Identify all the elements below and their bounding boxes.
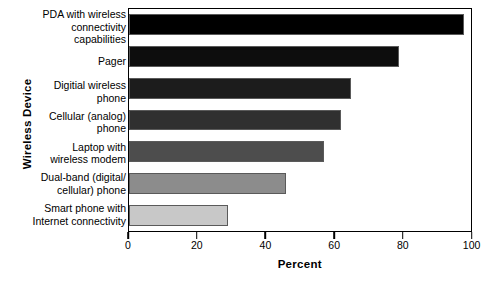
x-tick	[471, 232, 473, 239]
bar	[129, 110, 341, 131]
x-tick	[127, 232, 129, 239]
x-tick	[333, 232, 335, 239]
bar	[129, 78, 351, 99]
category-row: Cellular (analog) phone	[18, 107, 126, 138]
bar	[129, 205, 228, 226]
category-label: Smart phone with Internet connectivity	[33, 202, 126, 227]
x-tick	[196, 232, 198, 239]
plot-area	[128, 8, 472, 232]
category-row: Pager	[18, 46, 126, 77]
x-tick	[402, 232, 404, 239]
bar-slot	[129, 41, 471, 73]
bar-slot	[129, 136, 471, 168]
x-tick-label: 20	[191, 239, 203, 251]
category-label: PDA with wireless connectivity capabilit…	[18, 8, 126, 46]
bar	[129, 173, 286, 194]
category-row: Laptop with wireless modem	[18, 138, 126, 169]
bar-chart-figure: Wireless Device PDA with wireless connec…	[0, 0, 494, 283]
bar-slot	[129, 168, 471, 200]
x-tick-label: 0	[125, 239, 131, 251]
category-row: Dual-band (digital/ cellular) phone	[18, 169, 126, 200]
x-tick-label: 40	[260, 239, 272, 251]
bar-slot	[129, 104, 471, 136]
bar-slot	[129, 199, 471, 231]
bar	[129, 46, 399, 67]
x-tick-label: 100	[463, 239, 481, 251]
bar-slot	[129, 9, 471, 41]
x-tick-label: 80	[397, 239, 409, 251]
category-label-column: PDA with wireless connectivity capabilit…	[18, 8, 126, 230]
bar-series	[129, 9, 471, 231]
x-tick	[265, 232, 267, 239]
x-tick-label: 60	[328, 239, 340, 251]
category-label: Pager	[98, 55, 126, 68]
category-row: Smart phone with Internet connectivity	[18, 199, 126, 230]
bar-slot	[129, 72, 471, 104]
x-axis-title: Percent	[128, 258, 472, 270]
category-label: Cellular (analog) phone	[49, 110, 126, 135]
category-row: Digitial wireless phone	[18, 76, 126, 107]
category-label: Digitial wireless phone	[54, 79, 126, 104]
category-row: PDA with wireless connectivity capabilit…	[18, 8, 126, 46]
bar	[129, 14, 464, 35]
x-axis-tick-labels: 020406080100	[128, 239, 472, 253]
category-label: Dual-band (digital/ cellular) phone	[41, 171, 126, 196]
bar	[129, 141, 324, 162]
category-label: Laptop with wireless modem	[50, 141, 126, 166]
